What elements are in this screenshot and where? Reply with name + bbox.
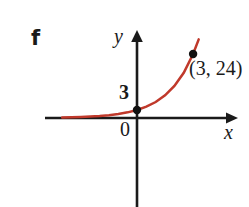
point-marker-y-intercept	[133, 106, 141, 114]
exponential-curve	[62, 39, 199, 117]
x-axis-label: x	[224, 122, 233, 142]
y-intercept-value-label: 3	[119, 82, 129, 102]
y-axis-arrowhead	[131, 30, 143, 42]
y-axis-label: y	[114, 26, 123, 46]
exponential-graph-figure: f y x 3 0 (3, 24)	[0, 0, 249, 207]
origin-label: 0	[120, 119, 130, 139]
point-coordinate-label: (3, 24)	[189, 58, 242, 78]
part-label: f	[31, 28, 40, 49]
